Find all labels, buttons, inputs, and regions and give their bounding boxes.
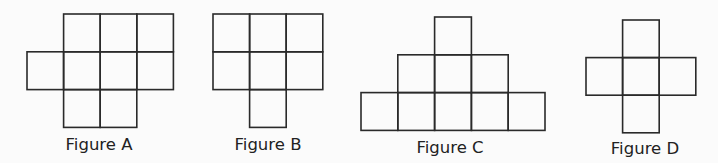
figure-b-square — [213, 52, 250, 90]
figure-c-square — [508, 93, 545, 131]
figure-b-square — [250, 90, 287, 128]
figure-c-square — [398, 55, 435, 93]
figure-c-square — [435, 17, 472, 55]
figure-a-square — [64, 90, 101, 128]
figure-d-square — [623, 20, 660, 58]
figure-c-square — [471, 55, 508, 93]
figure-d-label: Figure D — [611, 139, 679, 158]
figure-c-square — [435, 55, 472, 93]
figure-a-square — [100, 14, 137, 52]
figure-b-square — [286, 52, 323, 90]
figure-c-square — [435, 93, 472, 131]
figure-a-square — [137, 52, 174, 90]
figure-d-square — [586, 58, 623, 96]
figure-b-label: Figure B — [235, 135, 302, 154]
figure-a-square — [27, 52, 64, 90]
figure-c-square — [471, 93, 508, 131]
figure-b-square — [250, 14, 287, 52]
figure-d-square — [623, 95, 660, 133]
figure-b-square — [250, 52, 287, 90]
figure-a-square — [100, 52, 137, 90]
figure-b: Figure B — [213, 14, 323, 154]
figure-c-label: Figure C — [416, 138, 483, 157]
figure-a-square — [100, 90, 137, 128]
figure-c: Figure C — [361, 17, 545, 157]
figure-d: Figure D — [586, 20, 696, 158]
figure-b-square — [213, 14, 250, 52]
figure-c-square — [361, 93, 398, 131]
figure-a-square — [64, 52, 101, 90]
figure-d-square — [623, 58, 660, 96]
figures-canvas: Figure A Figure B Figure C Figure D — [0, 0, 718, 163]
figure-a-label: Figure A — [66, 135, 134, 154]
figure-b-square — [286, 14, 323, 52]
figure-a-square — [64, 14, 101, 52]
figure-a-square — [137, 14, 174, 52]
figure-a: Figure A — [27, 14, 173, 154]
figure-c-square — [398, 93, 435, 131]
figure-d-square — [659, 58, 696, 96]
